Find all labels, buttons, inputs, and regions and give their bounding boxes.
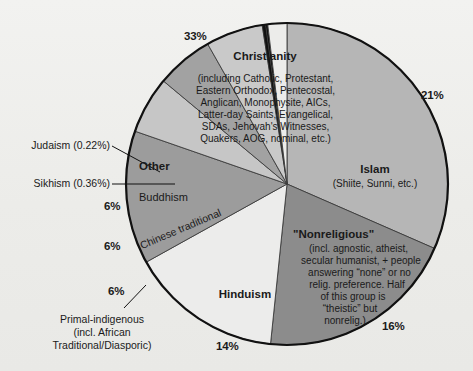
primal-indigenous-line-3: Traditional/Diasporic) [18,339,186,351]
sikhism-callout-label: Sikhism (0.36%) [0,177,110,189]
christianity-detail-line-6: Quakers, AOG, nominal, etc.) [163,133,368,145]
christianity-detail-line-4: Latter-day Saints, Evangelical, [163,109,368,121]
chart-canvas: 33% Christianity (including Catholic, Pr… [0,0,473,371]
nonreligious-title: "Nonreligious" [293,228,423,242]
christianity-title: Christianity [200,50,330,64]
primal-indigenous-line-1: Primal-indigenous [32,313,172,325]
nonreligious-line-6: “theistic” but [291,303,409,315]
christianity-detail-line-3: Anglican, Monophysite, AICs, [163,97,368,109]
nonreligious-line-3: answering “none” or no [291,267,428,279]
nonreligious-line-2: secular humanist, + people [291,255,431,267]
buddhism-percent-label: 6% [104,200,120,214]
nonreligious-percent-label: 16% [382,320,404,334]
primal-indigenous-percent-label: 6% [108,285,124,299]
islam-detail: (Shiite, Sunni, etc.) [320,178,430,190]
buddhism-title: Buddhism [139,191,188,204]
nonreligious-line-4: relig. preference. Half [291,279,423,291]
judaism-callout-label: Judaism (0.22%) [0,139,110,151]
islam-percent-label: 21% [421,89,443,103]
hinduism-percent-label: 14% [216,340,238,354]
other-title: Other [139,160,170,174]
christianity-detail-line-1: (including Catholic, Protestant, [163,73,368,85]
islam-title: Islam [330,163,420,177]
christianity-detail-line-5: SDAs, Jehovah's Witnesses, [163,121,368,133]
hinduism-title: Hinduism [190,288,300,302]
nonreligious-line-1: (incl. agnostic, atheist, [291,243,426,255]
christianity-detail-line-2: Eastern Orthodox, Pentecostal, [163,85,368,97]
christianity-percent-label: 33% [184,30,206,44]
primal-indigenous-line-2: (incl. African [32,326,172,338]
nonreligious-line-5: of this group is [291,291,415,303]
chinese-traditional-percent-label: 6% [104,240,120,254]
primal-leader-line [124,285,146,308]
